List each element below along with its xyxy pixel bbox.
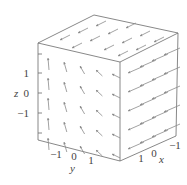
y-axis: −1 0 1 y [50,148,94,174]
z-tick-label: 1 [24,67,30,79]
y-tick-label: 1 [88,154,94,166]
z-axis-label: z [13,87,19,99]
y-axis-label: y [69,162,75,174]
bounding-box [38,15,178,161]
z-tick-label: 0 [24,87,30,99]
z-tick-label: −1 [17,107,29,119]
vector-field-plot: 1 0 −1 z −1 0 1 y 1 0 −1 x [0,0,187,185]
x-tick-label: 1 [138,152,144,164]
x-tick-label: 0 [151,147,157,159]
x-axis-label: x [158,153,164,165]
x-axis: 1 0 −1 x [138,139,181,165]
x-tick-label: −1 [169,139,181,151]
y-tick-label: 0 [71,150,77,162]
y-tick-label: −1 [50,148,62,160]
